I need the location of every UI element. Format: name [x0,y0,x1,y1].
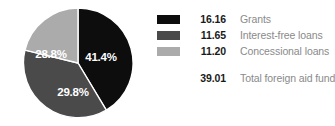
legend-swatch-grants [157,15,180,24]
pie-label-interest-free-loans: 29.8% [57,86,89,98]
legend-item-concessional-loans[interactable]: 11.20 Concessional loans [157,43,333,59]
pie-label-grants: 41.4% [85,51,117,63]
legend-value-concessional-loans: 11.20 [190,45,226,57]
legend-swatch-total-placeholder [157,74,180,83]
legend-item-grants[interactable]: 16.16 Grants [157,11,333,27]
legend-label-concessional-loans: Concessional loans [240,45,329,57]
legend-label-interest-free-loans: Interest-free loans [240,29,323,41]
legend-swatch-interest-free-loans [157,31,180,40]
legend-swatch-concessional-loans [157,47,180,56]
legend: 16.16 Grants 11.65 Interest-free loans 1… [157,11,333,86]
legend-label-grants: Grants [240,13,271,25]
legend-value-grants: 16.16 [190,13,226,25]
legend-item-total: 39.01 Total foreign aid fund [157,70,333,86]
legend-label-total: Total foreign aid fund [240,72,335,84]
pie-chart: 41.4% 29.8% 28.8% [21,6,135,120]
pie-label-concessional-loans: 28.8% [35,48,67,60]
legend-value-total: 39.01 [190,72,226,84]
legend-item-interest-free-loans[interactable]: 11.65 Interest-free loans [157,27,333,43]
legend-value-interest-free-loans: 11.65 [190,29,226,41]
